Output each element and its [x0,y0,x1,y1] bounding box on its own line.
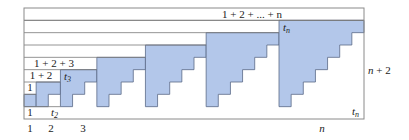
staircase-t5 [145,45,206,107]
staircase-t6 [206,33,279,107]
label-sum-2: 1 + 2 [30,69,53,81]
label-sum-1: 1 [27,81,33,93]
axis-label-2: 2 [48,122,54,134]
staircase-t7 [279,20,364,106]
label-height-n-plus-2: n + 2 [368,64,391,76]
axis-label-1: 1 [27,122,33,134]
label-sum-to-n: 1 + 2 + ... + n [222,8,282,20]
axis-label-n: n [319,122,325,134]
label-bottom-1: 1 [27,106,33,118]
label-t2: t2 [51,106,58,120]
staircase-t2 [36,82,60,107]
staircase-t4 [97,57,146,106]
axis-label-3: 3 [80,122,86,134]
staircase-group [24,20,364,106]
staircase-t1 [24,94,36,106]
label-sum-3: 1 + 2 + 3 [34,57,74,69]
label-tn-bottom: tn [352,105,359,119]
triangular-numbers-diagram: 1 + 2 + ... + n 1 + 2 + 3 1 + 2 1 1 t2 t… [0,0,409,140]
